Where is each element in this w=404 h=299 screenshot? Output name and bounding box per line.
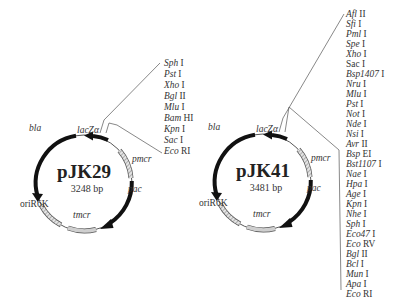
site-list-item: Age I [346, 189, 366, 199]
enzyme-name: Age [346, 189, 361, 199]
site-sac: Sac I [164, 135, 183, 145]
enzyme-name: Bcl [346, 259, 359, 269]
enzyme-name: Sac [164, 135, 178, 145]
plasmid-map-pjk29 [32, 63, 162, 231]
enzyme-name: Bgl [164, 91, 177, 101]
site-list-item: Bgl II [346, 249, 368, 259]
site-list-item: Bcl I [346, 259, 364, 269]
site-sph: Sph I [164, 58, 184, 68]
feature-label-bla: bla [29, 123, 41, 133]
site-list-item: Mlu I [346, 89, 367, 99]
site-list-item: Nhe I [346, 209, 367, 219]
enzyme-name: Bst1107 [346, 159, 376, 169]
feature-label-pmcr: pmcr [132, 154, 152, 164]
mcs-callout-line-bottom [285, 107, 341, 290]
enzyme-numeral: I [178, 135, 183, 145]
plasmid-size: 3481 bp [250, 182, 283, 193]
lacz-gene-arc [93, 136, 108, 140]
enzyme-numeral: RI [179, 146, 191, 156]
site-list-item: Sac I [346, 59, 365, 69]
enzyme-name: Apa [346, 279, 361, 289]
enzyme-numeral: I [359, 129, 364, 139]
enzyme-numeral: RV [361, 239, 376, 249]
enzyme-numeral: I [361, 119, 366, 129]
enzyme-numeral: I [360, 59, 365, 69]
enzyme-name: Not [346, 109, 360, 119]
plasmid-map-pjk41 [211, 14, 344, 290]
plasmid-maps-drawing [0, 0, 404, 299]
enzyme-numeral: I [379, 69, 384, 79]
enzyme-name: Eco [346, 239, 361, 249]
site-kpn: Kpn I [164, 124, 185, 134]
enzyme-numeral: I [179, 102, 184, 112]
enzyme-name: Avr [346, 139, 359, 149]
enzyme-numeral: I [356, 19, 361, 29]
enzyme-name: Nsi [346, 129, 359, 139]
enzyme-numeral: I [180, 124, 185, 134]
enzyme-name: Bam [164, 113, 181, 123]
enzyme-numeral: I [361, 169, 366, 179]
enzyme-numeral: I [362, 179, 367, 189]
enzyme-name: Bsp1407 [346, 69, 379, 79]
enzyme-numeral: I [361, 49, 366, 59]
enzyme-numeral: I [361, 29, 366, 39]
site-list-item: Eco47 I [346, 229, 375, 239]
enzyme-numeral: I [361, 209, 366, 219]
enzyme-name: Nae [346, 169, 361, 179]
enzyme-numeral: II [177, 91, 186, 101]
site-list-item: Pst I [346, 99, 363, 109]
enzyme-numeral: I [178, 58, 183, 68]
enzyme-numeral: I [370, 229, 375, 239]
enzyme-name: Sfi [346, 19, 356, 29]
enzyme-name: Nhe [346, 209, 361, 219]
site-list-item: Xho I [346, 49, 367, 59]
site-list-item: Nru I [346, 79, 366, 89]
enzyme-name: Nru [346, 79, 361, 89]
enzyme-name: Sph [346, 219, 360, 229]
enzyme-numeral: I [176, 69, 181, 79]
enzyme-numeral: I [362, 199, 367, 209]
enzyme-numeral: I [361, 89, 366, 99]
site-bgl: Bgl II [164, 91, 186, 101]
enzyme-numeral: II [357, 9, 366, 19]
enzyme-name: Kpn [164, 124, 180, 134]
enzyme-numeral: RI [361, 289, 373, 299]
enzyme-numeral: I [360, 219, 365, 229]
feature-label-bla: bla [208, 122, 220, 132]
site-eco: Eco RI [164, 146, 190, 156]
site-bam: Bam HI [164, 113, 193, 123]
enzyme-numeral: I [359, 259, 364, 269]
site-list-item: Bsp EI [346, 149, 371, 159]
enzyme-name: Mlu [346, 89, 361, 99]
site-list-item: Sph I [346, 219, 366, 229]
mcs-callout-line-top [279, 14, 344, 132]
site-pst: Pst I [164, 69, 181, 79]
plasmid-name: pJK41 [236, 160, 290, 182]
enzyme-name: Bsp [346, 149, 360, 159]
enzyme-name: Sac [346, 59, 360, 69]
enzyme-numeral: EI [360, 149, 371, 159]
feature-label-lacz: lacZα [77, 125, 99, 135]
enzyme-name: Afl [346, 9, 357, 19]
enzyme-numeral: I [360, 39, 365, 49]
enzyme-name: Nde [346, 119, 361, 129]
enzyme-name: Spe [346, 39, 360, 49]
enzyme-name: Eco47 [346, 229, 370, 239]
enzyme-numeral: I [358, 99, 363, 109]
mcs-callout-line-top [100, 63, 160, 133]
site-list-item: Kpn I [346, 199, 367, 209]
site-list-item: Avr II [346, 139, 368, 149]
enzyme-numeral: II [359, 249, 368, 259]
enzyme-name: Mun [346, 269, 363, 279]
site-xho: Xho I [164, 80, 185, 90]
mcs-callout-line-bottom [106, 123, 162, 153]
feature-label-lacz: lacZα [256, 124, 278, 134]
feature-label-ori: oriR6K [199, 198, 228, 208]
enzyme-name: Xho [346, 49, 361, 59]
enzyme-numeral: I [361, 189, 366, 199]
feature-label-pac: pac [128, 184, 142, 194]
enzyme-numeral: HI [181, 113, 193, 123]
enzyme-numeral: I [376, 159, 381, 169]
enzyme-name: Mlu [164, 102, 179, 112]
site-list-item: Sfi I [346, 19, 361, 29]
